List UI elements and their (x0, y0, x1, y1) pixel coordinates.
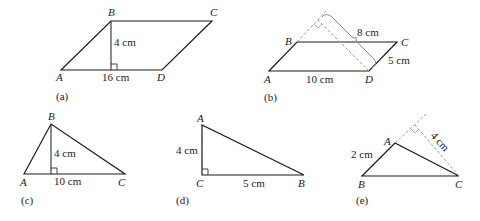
figure-a: B C A D 4 cm 16 cm (a) (55, 6, 218, 103)
right-angle-marker (314, 24, 322, 28)
caption-d: (d) (176, 194, 189, 207)
right-angle-marker (51, 168, 57, 174)
height-label: 8 cm (357, 26, 379, 38)
height-label: 4 cm (54, 147, 76, 159)
triangle-abc (202, 125, 304, 175)
side-label: 2 cm (351, 148, 373, 160)
dimension-brace (322, 15, 376, 69)
right-angle-marker (202, 169, 208, 175)
figure-b: B C A D 8 cm 5 cm 10 cm (b) (263, 9, 410, 104)
vertex-label-a: A (263, 73, 271, 85)
parallelogram-abcd (61, 21, 212, 70)
vertex-label-a: A (383, 135, 391, 147)
height-label: 4 cm (176, 144, 198, 156)
vertex-label-b: B (298, 177, 305, 189)
figure-d: A C B 4 cm 5 cm (d) (176, 112, 305, 207)
vertex-label-c: C (196, 177, 204, 189)
caption-a: (a) (56, 90, 69, 103)
base-label: 10 cm (306, 73, 334, 85)
vertex-label-a: A (196, 112, 204, 124)
base-label: 16 cm (102, 71, 130, 83)
caption-c: (c) (21, 194, 34, 207)
height-label: 4 cm (114, 36, 136, 48)
figure-e: A B C 2 cm 4 cm (e) (351, 114, 463, 207)
vertex-label-c: C (401, 36, 409, 48)
vertex-label-c: C (210, 6, 218, 18)
vertex-label-c: C (118, 176, 126, 188)
vertex-label-a: A (19, 176, 27, 188)
right-angle-marker (111, 64, 117, 70)
vertex-label-b: B (358, 178, 365, 190)
vertex-label-a: A (55, 71, 63, 83)
base-label: 10 cm (54, 175, 82, 187)
caption-b: (b) (264, 91, 277, 104)
height-label: 4 cm (429, 129, 453, 153)
vertex-label-b: B (48, 110, 55, 122)
caption-e: (e) (356, 194, 369, 207)
vertex-label-d: D (156, 71, 165, 83)
figure-c: B A C 4 cm 10 cm (c) (19, 110, 126, 207)
vertex-label-c: C (455, 178, 463, 190)
extension-line (297, 9, 328, 42)
side-label: 5 cm (388, 54, 410, 66)
extension-line (395, 114, 426, 143)
right-angle-marker (411, 129, 419, 133)
vertex-label-d: D (364, 73, 373, 85)
vertex-label-b: B (285, 35, 292, 47)
base-label: 5 cm (243, 177, 265, 189)
vertex-label-b: B (108, 6, 115, 18)
geometry-figures: B C A D 4 cm 16 cm (a) B C A D 8 cm 5 cm… (0, 0, 480, 221)
